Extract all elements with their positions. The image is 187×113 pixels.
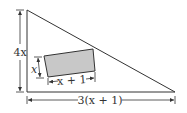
height-label: 4x [13,46,27,59]
geometry-diagram: 4x x x + 1 3(x + 1) [0,0,187,113]
rect-height-label: x [31,63,38,76]
rect-height-dimension: x [31,57,44,78]
shaded-rectangle [44,49,95,77]
base-label: 3(x + 1) [78,94,123,107]
rect-width-label: x + 1 [57,73,87,88]
base-dimension: 3(x + 1) [27,94,175,107]
height-dimension: 4x [13,10,27,92]
right-triangle [27,10,175,92]
